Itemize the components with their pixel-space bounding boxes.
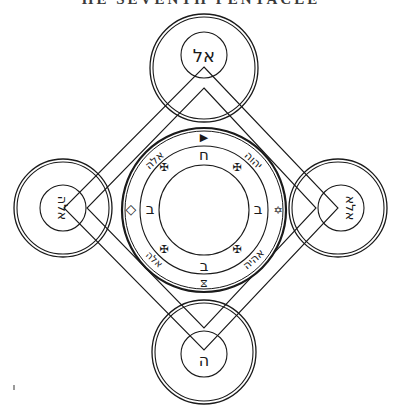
cross-icon: ✠ [232,243,241,256]
title-cropped: ΗΕ SEVENTH PENTACLE [60,0,342,5]
scan-mark [13,385,15,390]
satellite-right-label: אלא [343,196,358,221]
cross-icon: ✠ [159,161,168,174]
cross-icon: ✠ [159,243,168,256]
hourglass-icon: ⧖ [200,277,208,290]
cross-icon: ✠ [232,161,241,174]
ring-letter-left: ב [146,200,155,218]
pentacle-figure: ΗΕ SEVENTH PENTACLE [0,0,402,415]
ring-letter-bottom: ב [200,257,209,275]
hexagram-icon: ✡ [273,204,282,217]
satellite-left-label: אלה [55,196,70,221]
pentacle-drawing: אל אלה אלא ה אלה יהוה אלה אהיה ח ב ב ב ✠… [0,0,402,415]
satellite-top-label: אל [193,45,215,66]
triangle-flag-icon: ▶ [200,131,209,144]
satellite-bottom-label: ה [199,351,209,370]
ring-letter-top: ח [199,146,209,164]
diamond-icon: ◇ [126,201,137,217]
ring-letter-right: ב [254,200,263,218]
